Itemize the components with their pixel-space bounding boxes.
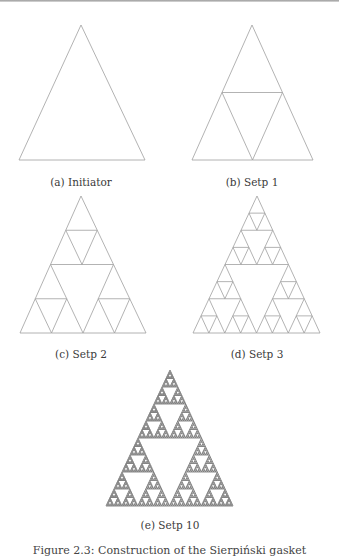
subfigure-c-triangle	[20, 196, 146, 333]
subfigure-caption-e: (e) Setp 10	[141, 519, 200, 531]
figure-caption: Figure 2.3: Construction of the Sierpińs…	[33, 544, 306, 557]
subfigure-caption-a: (a) Initiator	[50, 176, 111, 188]
subfigure-caption-b: (b) Setp 1	[226, 176, 279, 188]
subfigure-caption-c: (c) Setp 2	[55, 348, 107, 360]
subfigure-e-triangle	[106, 370, 233, 506]
subfigure-b-triangle	[192, 25, 313, 160]
subfigure-d-triangle	[193, 196, 320, 333]
subfigure-caption-d: (d) Setp 3	[231, 348, 284, 360]
subfigure-a-triangle	[19, 25, 145, 160]
